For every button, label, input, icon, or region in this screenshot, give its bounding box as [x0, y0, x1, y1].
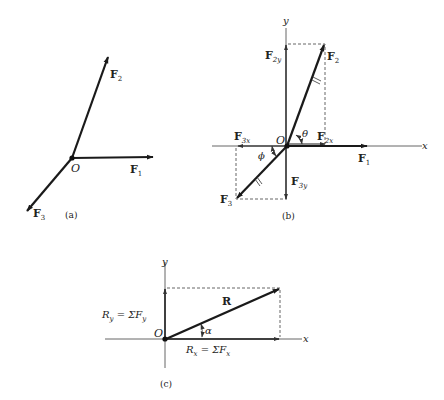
label-f2: F2	[327, 50, 339, 65]
origin-point	[162, 336, 167, 341]
origin-label: O	[71, 162, 80, 175]
panel-b: y x θ ϕ O F2 F2y F2x F1 F3x F3y F3	[212, 15, 428, 221]
label-f3: F3	[33, 207, 45, 222]
alpha-angle-arc	[201, 324, 202, 337]
label-f1: F1	[130, 163, 142, 178]
y-axis-label: y	[282, 15, 289, 26]
theta-label: θ	[302, 128, 308, 139]
origin-point	[69, 155, 74, 160]
label-f3x: F3x	[234, 130, 250, 145]
caption-b: (b)	[282, 211, 295, 221]
origin-label: O	[154, 327, 163, 340]
label-ry: Ry = ΣFy	[101, 309, 147, 323]
label-r: R	[222, 295, 232, 308]
tick-mark-f2	[313, 77, 321, 81]
label-f1: F1	[358, 152, 370, 167]
x-axis-label: x	[303, 333, 309, 344]
x-axis-label: x	[422, 140, 428, 151]
phi-label: ϕ	[258, 150, 265, 161]
caption-c: (c)	[160, 379, 172, 389]
panel-a: F2 F1 F3 O (a)	[27, 57, 153, 222]
caption-a: (a)	[65, 210, 77, 220]
force-vector-figure: F2 F1 F3 O (a) y x θ ϕ O	[0, 0, 444, 400]
vector-f2	[72, 57, 108, 158]
alpha-label: α	[205, 325, 212, 336]
label-f3: F3	[220, 193, 232, 208]
label-f2: F2	[110, 68, 122, 83]
panel-c: y x α O R Ry = ΣFy Rx = ΣFx (c)	[101, 256, 309, 389]
origin-label: O	[276, 134, 285, 147]
origin-point	[284, 143, 289, 148]
label-f3y: F3y	[291, 175, 308, 190]
y-axis-label: y	[161, 256, 168, 267]
label-f2y: F2y	[265, 49, 282, 64]
phi-angle-arc	[272, 146, 276, 156]
label-rx: Rx = ΣFx	[185, 344, 230, 358]
vector-f1	[72, 157, 153, 158]
tick-mark-f2	[312, 80, 320, 84]
vector-f3	[27, 158, 72, 211]
